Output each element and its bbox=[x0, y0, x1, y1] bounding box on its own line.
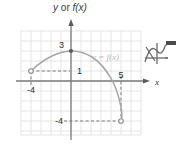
label-x-five: 5 bbox=[118, 70, 123, 80]
corner-marker-bar bbox=[166, 41, 176, 45]
endpoint-open-left bbox=[29, 69, 34, 74]
y-axis-arrow bbox=[68, 19, 73, 26]
curve-equation-label: y = f(x) bbox=[91, 52, 119, 62]
y-axis-title-or: or bbox=[58, 2, 72, 13]
label-y-one: 1 bbox=[77, 66, 82, 76]
y-axis-title-fx: f(x) bbox=[73, 2, 87, 13]
label-x-neg-four: -4 bbox=[27, 85, 35, 95]
label-y-neg-four: -4 bbox=[55, 116, 63, 126]
function-graph-figure: y or f(x) bbox=[0, 0, 176, 157]
x-axis-arrow bbox=[143, 78, 150, 83]
axes bbox=[16, 19, 150, 140]
endpoint-open-right bbox=[119, 119, 124, 124]
x-axis-label: x bbox=[154, 77, 159, 87]
dashed-guides bbox=[31, 71, 121, 121]
y-axis-title: y or f(x) bbox=[0, 2, 140, 13]
vertex-point bbox=[69, 49, 73, 53]
label-y-three: 3 bbox=[59, 40, 64, 50]
graph-canvas: 3 1 -4 5 -4 y = f(x) x bbox=[0, 0, 176, 157]
